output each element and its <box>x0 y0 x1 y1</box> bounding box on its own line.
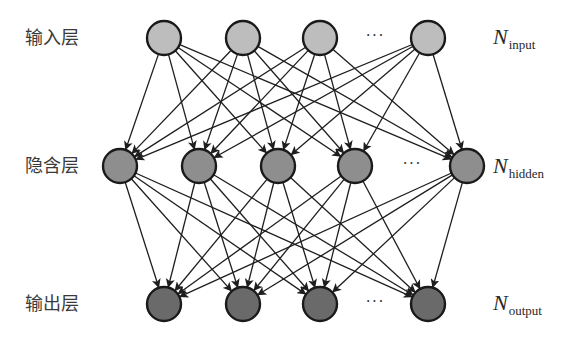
connection-edge <box>132 50 231 153</box>
input-node <box>411 21 445 55</box>
hidden-layer-label: 隐含层 <box>25 156 79 176</box>
hidden-node <box>261 149 295 183</box>
count-symbol: N <box>493 24 508 49</box>
input-node <box>303 21 337 55</box>
connection-edge <box>125 182 159 287</box>
input-layer-label: 输入层 <box>25 28 79 48</box>
count-symbol: N <box>493 290 508 315</box>
count-subscript: input <box>509 37 536 52</box>
count-symbol: N <box>493 153 508 178</box>
connection-edge <box>291 178 416 293</box>
input-node <box>147 21 181 55</box>
output-node <box>303 287 337 321</box>
hidden-ellipsis: ··· <box>403 155 422 173</box>
input-node <box>226 21 260 55</box>
hidden-node <box>103 149 137 183</box>
connection-edge <box>364 53 420 151</box>
connection-edge <box>136 173 413 297</box>
connection-edge <box>214 175 413 295</box>
connection-edge <box>363 181 420 289</box>
hidden-node <box>182 149 216 183</box>
input-count-label: Ninput <box>493 26 535 51</box>
count-subscript: hidden <box>509 166 544 181</box>
output-count-label: Noutput <box>493 292 542 317</box>
connection-edge <box>134 176 306 294</box>
connection-edge <box>136 45 412 160</box>
output-node <box>411 287 445 321</box>
connection-edge <box>433 54 462 149</box>
connection-edge <box>291 49 415 155</box>
hidden-count-label: Nhidden <box>493 155 544 180</box>
output-node <box>147 287 181 321</box>
output-ellipsis: ··· <box>366 293 385 311</box>
connection-edge <box>254 179 344 290</box>
connection-edge <box>214 46 413 157</box>
connection-edge <box>175 179 267 290</box>
hidden-node <box>450 149 484 183</box>
output-layer-label: 输出层 <box>25 294 79 314</box>
output-node <box>226 287 260 321</box>
connection-edge <box>211 50 308 153</box>
input-ellipsis: ··· <box>366 27 385 45</box>
connection-edge <box>135 47 306 156</box>
connection-edge <box>433 182 463 287</box>
neural-network-diagram <box>0 0 570 349</box>
count-subscript: output <box>509 303 542 318</box>
connection-edge <box>258 175 453 295</box>
hidden-node <box>338 149 372 183</box>
connection-edge <box>126 54 159 149</box>
